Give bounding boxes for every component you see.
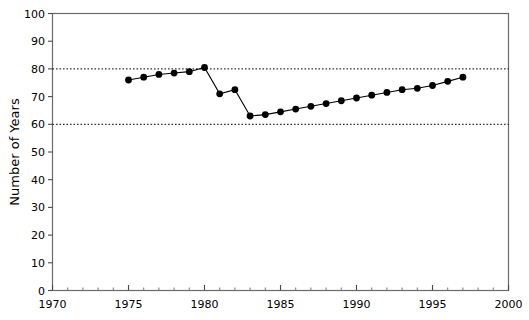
y-tick-label-100: 100	[24, 8, 45, 21]
x-tick-label-1975: 1975	[115, 298, 143, 311]
y-tick-label-20: 20	[31, 229, 45, 242]
data-point-marker	[247, 113, 254, 120]
y-tick-label-70: 70	[31, 91, 45, 104]
y-tick-label-0: 0	[38, 285, 45, 298]
y-tick-label-50: 50	[31, 146, 45, 159]
data-point-marker	[201, 64, 208, 71]
data-point-marker	[171, 70, 178, 77]
data-point-marker	[323, 100, 330, 107]
data-point-marker	[156, 71, 163, 78]
y-tick-label-40: 40	[31, 174, 45, 187]
data-point-marker	[429, 82, 436, 89]
x-tick-label-1970: 1970	[39, 298, 67, 311]
data-point-marker	[399, 86, 406, 93]
y-tick-label-90: 90	[31, 35, 45, 48]
data-point-marker	[277, 108, 284, 115]
data-point-marker	[216, 90, 223, 97]
data-point-marker	[262, 111, 269, 118]
data-point-marker	[232, 86, 239, 93]
y-axis-title: Number of Years	[7, 98, 22, 206]
data-point-marker	[140, 74, 147, 81]
data-point-marker	[460, 74, 467, 81]
x-tick-label-1985: 1985	[267, 298, 295, 311]
data-point-marker	[186, 68, 193, 75]
data-point-marker	[338, 97, 345, 104]
data-point-marker	[444, 78, 451, 85]
chart-container: 0102030405060708090100197019751980198519…	[0, 0, 529, 320]
x-tick-label-1995: 1995	[419, 298, 447, 311]
data-point-marker	[353, 95, 360, 102]
plot-frame	[53, 14, 509, 291]
y-tick-label-30: 30	[31, 201, 45, 214]
x-tick-label-1990: 1990	[343, 298, 371, 311]
x-tick-label-1980: 1980	[191, 298, 219, 311]
data-point-marker	[292, 106, 299, 113]
data-point-marker	[384, 89, 391, 96]
data-point-marker	[308, 103, 315, 110]
y-tick-label-60: 60	[31, 118, 45, 131]
data-point-marker	[414, 85, 421, 92]
y-tick-label-80: 80	[31, 63, 45, 76]
y-tick-label-10: 10	[31, 257, 45, 270]
x-tick-label-2000: 2000	[495, 298, 523, 311]
line-chart: 0102030405060708090100197019751980198519…	[0, 0, 529, 320]
data-point-marker	[368, 92, 375, 99]
data-point-marker	[125, 77, 132, 84]
